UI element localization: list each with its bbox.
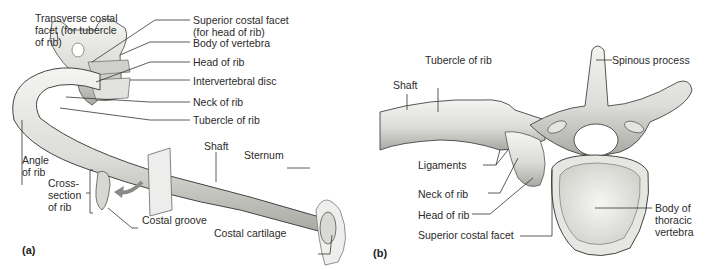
label-superior-costal-facet-b: Superior costal facet — [418, 229, 514, 241]
label-intervertebral-disc: Intervertebral disc — [193, 75, 276, 87]
label-transverse-costal-facet: Transverse costal facet (for tubercle of… — [35, 12, 117, 48]
label-ligaments: Ligaments — [418, 159, 466, 171]
label-body-of-vertebra: Body of vertebra — [193, 37, 270, 49]
label-cross-section-of-rib: Cross- section of rib — [48, 177, 81, 213]
label-body-of-thoracic-vertebra: Body of thoracic vertebra — [655, 202, 694, 238]
label-head-of-rib-a: Head of rib — [193, 56, 244, 68]
panel-b-drawing — [380, 46, 692, 256]
label-head-of-rib-b: Head of rib — [418, 209, 469, 221]
label-shaft-a: Shaft — [204, 140, 229, 152]
label-costal-groove: Costal groove — [142, 214, 207, 226]
label-spinous-process: Spinous process — [612, 54, 690, 66]
panel-b-tag: (b) — [373, 247, 387, 259]
label-superior-costal-facet-a: Superior costal facet (for head of rib) — [193, 14, 289, 38]
panel-a-drawing — [13, 19, 346, 265]
label-tubercle-of-rib-b: Tubercle of rib — [425, 54, 492, 66]
label-tubercle-of-rib-a: Tubercle of rib — [193, 114, 260, 126]
label-angle-of-rib: Angle of rib — [22, 154, 49, 178]
label-costal-cartilage: Costal cartilage — [214, 227, 286, 239]
label-shaft-b: Shaft — [393, 79, 418, 91]
label-neck-of-rib-b: Neck of rib — [418, 188, 468, 200]
label-sternum: Sternum — [244, 149, 284, 161]
panel-a-tag: (a) — [22, 244, 35, 256]
label-neck-of-rib-a: Neck of rib — [193, 96, 243, 108]
